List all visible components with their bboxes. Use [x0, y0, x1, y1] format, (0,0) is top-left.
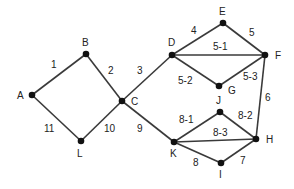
edge-label: 5-1 — [213, 41, 228, 52]
edge-c-l — [81, 101, 122, 141]
edge-h-i — [221, 139, 256, 163]
node-label: E — [219, 6, 226, 17]
node-label: H — [266, 134, 273, 145]
network-graph: 123455-15-25-36788-18-28-391011 ABCLDEFG… — [0, 0, 294, 189]
edge-label: 11 — [44, 123, 55, 134]
edge-label: 3 — [137, 65, 143, 76]
edge-label: 5 — [249, 27, 255, 38]
edge-label: 8-3 — [213, 127, 228, 138]
node-d — [169, 52, 176, 59]
edge-f-h — [256, 55, 265, 139]
node-label: L — [77, 148, 83, 159]
edge-a-b — [32, 54, 86, 95]
node-f — [262, 52, 269, 59]
edge-g-f — [219, 55, 265, 86]
node-l — [78, 138, 85, 145]
node-labels-layer: ABCLDEFGJHKI — [17, 6, 281, 180]
edge-label: 2 — [108, 65, 114, 76]
edge-label: 8 — [193, 157, 199, 168]
edge-a-l — [32, 95, 81, 141]
edge-k-h — [174, 139, 256, 142]
edge-label: 9 — [137, 123, 143, 134]
node-e — [220, 20, 227, 27]
node-c — [119, 98, 126, 105]
node-k — [171, 139, 178, 146]
node-j — [217, 109, 224, 116]
edge-label: 8-1 — [179, 114, 194, 125]
node-label: K — [170, 148, 177, 159]
edge-label: 4 — [191, 25, 197, 36]
node-h — [253, 136, 260, 143]
node-label: B — [82, 37, 89, 48]
edge-label: 7 — [240, 155, 246, 166]
node-label: G — [228, 85, 236, 96]
node-i — [218, 160, 225, 167]
node-g — [216, 83, 223, 90]
node-label: C — [131, 96, 138, 107]
node-label: F — [275, 50, 281, 61]
edge-label: 6 — [265, 92, 271, 103]
edge-b-c — [86, 54, 122, 101]
edge-labels-layer: 123455-15-25-36788-18-28-391011 — [44, 25, 271, 168]
edge-c-d — [122, 55, 172, 101]
edge-label: 5-2 — [178, 75, 193, 86]
edge-label: 1 — [51, 59, 57, 70]
edge-label: 10 — [104, 123, 116, 134]
edge-c-k — [122, 101, 174, 142]
edge-e-f — [223, 23, 265, 55]
edge-label: 8-2 — [238, 110, 253, 121]
node-label: I — [219, 169, 222, 180]
node-label: D — [168, 37, 175, 48]
node-label: J — [216, 95, 221, 106]
edge-label: 5-3 — [243, 71, 258, 82]
node-label: A — [17, 90, 24, 101]
node-a — [29, 92, 36, 99]
node-b — [83, 51, 90, 58]
